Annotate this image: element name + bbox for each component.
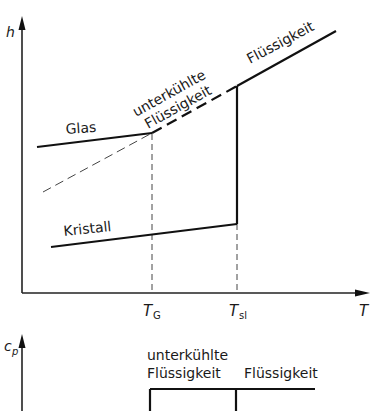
svg-text:p: p xyxy=(11,346,18,357)
tsl-tick-label: T sl xyxy=(229,302,247,321)
h-axis-label: h xyxy=(6,24,15,40)
t-axis-arrow-icon xyxy=(355,290,370,297)
bottom-chart: c p unterkühlte Flüssigkeit Flüssigkeit xyxy=(4,334,318,411)
cp-supercooled-label-line2: Flüssigkeit xyxy=(147,365,221,381)
glass-line xyxy=(37,133,152,147)
top-chart: h T Glas unterkühlte Flüssigkeit Flüssig… xyxy=(6,16,370,321)
svg-text:G: G xyxy=(153,310,161,321)
glass-extrapolation-line xyxy=(43,133,152,192)
liquid-label: Flüssigkeit xyxy=(244,18,317,67)
t-axis-label: T xyxy=(359,302,370,320)
cp-axis-arrow-icon xyxy=(19,334,26,348)
crystal-label: Kristall xyxy=(63,218,112,239)
h-axis-arrow-icon xyxy=(19,16,26,30)
glass-label: Glas xyxy=(65,119,97,137)
cp-axis-label: c p xyxy=(4,338,18,357)
svg-text:sl: sl xyxy=(239,310,247,321)
svg-text:c: c xyxy=(4,338,12,354)
tg-tick-label: T G xyxy=(143,302,161,321)
cp-supercooled-label-line1: unterkühlte xyxy=(147,347,228,363)
cp-liquid-label: Flüssigkeit xyxy=(244,365,318,381)
enthalpy-and-heat-capacity-diagram: h T Glas unterkühlte Flüssigkeit Flüssig… xyxy=(0,0,376,411)
